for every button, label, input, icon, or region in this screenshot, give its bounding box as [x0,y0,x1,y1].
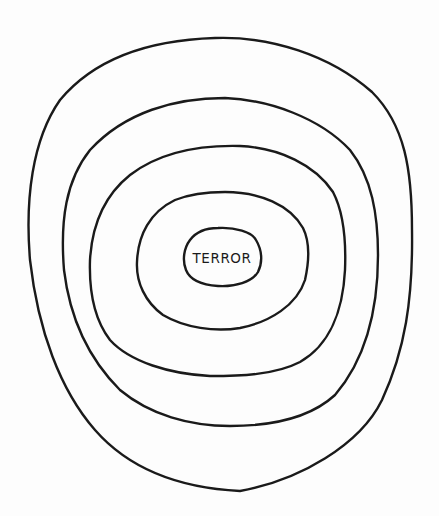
drawing-canvas: TERROR [0,0,439,516]
concentric-rings-illustration: TERROR [0,0,439,516]
core-label: TERROR [191,250,251,266]
